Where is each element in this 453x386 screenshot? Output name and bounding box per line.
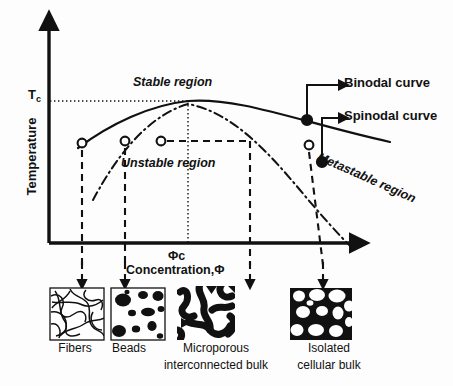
critical-temperature-label: Tc — [28, 88, 41, 104]
critical-concentration-label: Φc — [168, 250, 185, 263]
binodal-curve-label: Binodal curve — [344, 76, 430, 89]
micrograph-panel-isolated — [290, 288, 354, 340]
open-circle-marker-3 — [157, 137, 166, 146]
tc-main-text: T — [28, 87, 36, 102]
tc-subscript-text: c — [36, 94, 41, 104]
open-circle-marker-4 — [305, 141, 314, 150]
open-circle-marker-2 — [121, 137, 130, 146]
bicontinuous-texture — [176, 284, 237, 342]
spinodal-curve — [93, 104, 352, 248]
micrograph-panel-fibers — [50, 288, 104, 340]
panel-caption-fibers: Fibers — [46, 341, 104, 355]
phase-diagram-figure: Temperature Tc Φc Concentration,Φ Stable… — [0, 0, 453, 386]
panel-caption-microporous: Microporous — [168, 341, 264, 355]
stable-region-label: Stable region — [133, 76, 212, 89]
micrograph-panel-beads — [111, 288, 165, 340]
open-circle-marker-1 — [78, 139, 87, 148]
y-axis-title: Temperature — [25, 102, 38, 212]
unstable-region-label: Unstable region — [121, 157, 215, 170]
panel-caption-isolated-line2: cellular bulk — [284, 358, 374, 372]
open-markers-group — [78, 137, 314, 150]
panel-caption-isolated: Isolated — [284, 341, 374, 355]
spinodal-curve-label: Spinodal curve — [344, 109, 437, 122]
x-axis-title: Concentration,Φ — [126, 264, 224, 277]
panel-caption-microporous-line2: interconnected bulk — [146, 358, 286, 372]
panel-caption-beads: Beads — [100, 341, 158, 355]
tie-drop-isolated — [309, 152, 323, 265]
micrograph-panel-microporous — [176, 284, 237, 342]
binodal-leader-line — [307, 85, 340, 120]
